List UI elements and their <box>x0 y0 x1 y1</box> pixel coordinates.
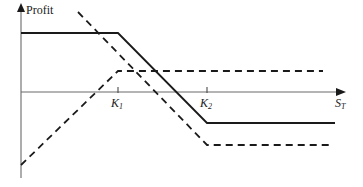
y-axis-label: Profit <box>26 4 53 16</box>
tick-label-k2-subscript: 2 <box>208 102 212 111</box>
payoff-diagram-figure: Profit ST K1 K2 <box>0 0 363 187</box>
tick-label-k2: K2 <box>200 97 212 109</box>
y-axis <box>17 3 25 178</box>
x-axis-label-subscript: T <box>341 102 345 111</box>
tick-label-k1-subscript: 1 <box>119 102 123 111</box>
x-axis-arrow-icon <box>336 88 346 96</box>
series-short-call-k1-payoff <box>78 12 330 145</box>
x-axis <box>21 88 346 96</box>
tick-label-k1-base: K <box>111 96 119 110</box>
series-long-call-k2-payoff <box>21 71 323 165</box>
tick-label-k1: K1 <box>111 97 123 109</box>
series-bear-spread-combined-payoff <box>21 33 335 123</box>
plot-canvas <box>0 0 363 187</box>
tick-label-k2-base: K <box>200 96 208 110</box>
y-axis-arrow-icon <box>17 3 25 12</box>
x-axis-label: ST <box>335 97 345 109</box>
